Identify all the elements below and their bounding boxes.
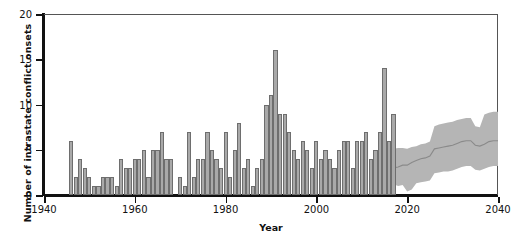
bar <box>264 105 268 196</box>
bar <box>233 150 237 195</box>
bar <box>214 159 218 195</box>
bar <box>210 150 214 195</box>
bar <box>360 141 364 195</box>
bar <box>146 177 150 195</box>
bar <box>283 114 287 195</box>
bar <box>160 132 164 195</box>
bar <box>124 168 128 195</box>
x-axis-label: Year <box>44 222 498 233</box>
bar <box>187 132 191 195</box>
bar <box>319 159 323 195</box>
y-tick-mark <box>36 59 43 61</box>
bar <box>219 168 223 195</box>
y-tick-mark <box>36 195 43 197</box>
bar <box>228 177 232 195</box>
x-tick-label: 1940 <box>24 204 64 215</box>
x-tick-mark <box>407 197 409 203</box>
bar <box>305 150 309 195</box>
bar <box>373 150 377 195</box>
bar <box>115 186 119 195</box>
bar <box>328 159 332 195</box>
bar <box>310 168 314 195</box>
bar <box>314 141 318 195</box>
bar <box>105 177 109 195</box>
y-tick-label: 10 <box>6 99 32 110</box>
bar <box>296 159 300 195</box>
x-tick-mark <box>44 197 46 203</box>
x-tick-mark <box>226 197 228 203</box>
y-tick-mark <box>36 14 43 16</box>
bar <box>355 141 359 195</box>
bar <box>292 150 296 195</box>
bar <box>246 159 250 195</box>
bar <box>351 168 355 195</box>
bar <box>178 177 182 195</box>
bar <box>196 159 200 195</box>
x-tick-label: 2000 <box>296 204 336 215</box>
bar <box>337 150 341 195</box>
bar <box>69 141 73 195</box>
bar <box>164 159 168 195</box>
x-tick-mark <box>135 197 137 203</box>
x-tick-label: 2020 <box>387 204 427 215</box>
bar <box>78 159 82 195</box>
bar <box>128 168 132 195</box>
x-tick-label: 1980 <box>206 204 246 215</box>
bar <box>346 141 350 195</box>
bar <box>278 114 282 195</box>
bar <box>201 159 205 195</box>
bar <box>155 150 159 195</box>
bar <box>101 177 105 195</box>
bar <box>192 177 196 195</box>
bar <box>183 186 187 195</box>
bar <box>391 114 395 195</box>
bar <box>342 141 346 195</box>
y-tick-label: 20 <box>6 9 32 20</box>
bar <box>151 150 155 195</box>
bar <box>255 168 259 195</box>
bar <box>269 95 273 195</box>
bar <box>364 132 368 195</box>
bar <box>251 186 255 195</box>
bar <box>224 132 228 195</box>
bar <box>237 123 241 195</box>
bar <box>387 141 391 195</box>
y-tick-mark <box>36 105 43 107</box>
x-tick-label: 2040 <box>478 204 517 215</box>
y-tick-label: 5 <box>6 144 32 155</box>
bar <box>301 141 305 195</box>
y-tick-label: 0 <box>6 190 32 201</box>
bar <box>142 150 146 195</box>
chart-figure: Number of intrastate conflict onsets Yea… <box>0 0 517 246</box>
bar <box>87 177 91 195</box>
bar <box>92 186 96 195</box>
bar <box>133 159 137 195</box>
bar <box>242 168 246 195</box>
bar <box>273 50 277 195</box>
y-tick-mark <box>36 150 43 152</box>
bar <box>332 168 336 195</box>
bar <box>169 159 173 195</box>
bar <box>260 159 264 195</box>
x-tick-label: 1960 <box>115 204 155 215</box>
x-tick-mark <box>498 197 500 203</box>
bar <box>110 177 114 195</box>
bar <box>137 159 141 195</box>
bar <box>287 132 291 195</box>
bar <box>323 150 327 195</box>
bar <box>369 159 373 195</box>
bar <box>119 159 123 195</box>
plot-area <box>44 14 498 195</box>
projection-uncertainty-band <box>394 112 498 192</box>
bar <box>83 168 87 195</box>
y-tick-label: 15 <box>6 54 32 65</box>
x-tick-mark <box>316 197 318 203</box>
bar <box>96 186 100 195</box>
bar <box>382 68 386 195</box>
bar <box>378 132 382 195</box>
bar <box>205 132 209 195</box>
bar <box>74 177 78 195</box>
